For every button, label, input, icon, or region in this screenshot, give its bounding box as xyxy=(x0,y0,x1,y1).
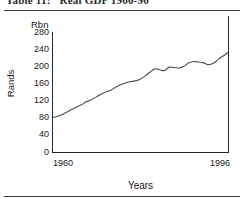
caption-text: Real GDP 1960-96 xyxy=(60,0,149,6)
gdp-line-path xyxy=(52,53,228,118)
y-tick-label: 160 xyxy=(22,79,49,88)
horizontal-rule-top xyxy=(4,10,240,11)
y-tick-label: 200 xyxy=(22,62,49,71)
gdp-line-series xyxy=(52,32,228,152)
plot-right-border xyxy=(228,16,229,153)
figure-container: Table 11:Real GDP 1960-96 Rbn 2802402001… xyxy=(0,0,244,203)
x-axis-tick-labels: 1960 1996 xyxy=(52,158,229,170)
figure-caption: Table 11:Real GDP 1960-96 xyxy=(6,0,238,7)
y-axis-tick-labels: 28024020016012080400 xyxy=(22,32,49,152)
y-tick-label: 280 xyxy=(22,28,49,37)
x-axis-line xyxy=(52,152,229,153)
y-tick-label: 80 xyxy=(22,113,49,122)
y-tick-label: 40 xyxy=(22,130,49,139)
horizontal-rule-bottom xyxy=(4,196,240,197)
caption-number: Table 11: xyxy=(6,0,51,6)
y-tick-label: 120 xyxy=(22,96,49,105)
x-axis-title: Years xyxy=(52,180,229,191)
plot-area xyxy=(52,32,228,152)
x-tick-end: 1996 xyxy=(210,158,230,168)
y-tick-label: 240 xyxy=(22,45,49,54)
x-tick-start: 1960 xyxy=(53,158,73,168)
y-axis-title: Rands xyxy=(5,62,16,106)
y-tick-label: 0 xyxy=(22,148,49,157)
